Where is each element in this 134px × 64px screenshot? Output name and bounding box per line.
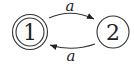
state-2-label: 2 — [106, 20, 120, 45]
state-1-label: 1 — [23, 20, 37, 45]
transition-2-to-1-label: a — [67, 47, 76, 64]
transition-1-to-2-label: a — [66, 0, 75, 15]
automaton-diagram: 1 2 a a — [0, 0, 134, 64]
state-1: 1 — [13, 15, 48, 50]
transition-1-to-2: a — [49, 0, 94, 19]
state-2: 2 — [97, 16, 129, 48]
transition-2-to-1: a — [50, 44, 95, 64]
